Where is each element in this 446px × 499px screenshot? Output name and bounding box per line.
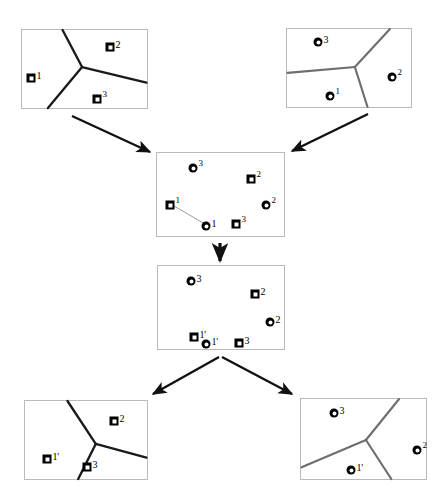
marker-label: 2 <box>276 315 281 325</box>
marker-label: 1' <box>357 463 363 473</box>
marker-label: 3 <box>197 274 202 284</box>
marker-label: 1 <box>176 195 180 205</box>
marker-label: 3 <box>340 406 345 416</box>
marker-label: 2 <box>257 169 261 179</box>
marker-label: 2 <box>272 195 276 205</box>
marker-square-3 <box>93 95 102 104</box>
marker-label: 3 <box>103 89 107 99</box>
panel-result-circles-voronoi: 321' <box>300 398 427 480</box>
marker-circle-2 <box>388 73 397 82</box>
marker-circle-3 <box>314 38 323 47</box>
marker-circle-1prime <box>347 466 356 475</box>
marker-label: 3 <box>242 214 246 224</box>
marker-label: 1 <box>212 219 217 229</box>
marker-label: 3 <box>324 35 329 45</box>
marker-label: 2 <box>120 414 125 424</box>
marker-square-3 <box>232 220 241 229</box>
marker-circle-1 <box>326 92 335 101</box>
voronoi-edge-3 <box>366 440 391 479</box>
voronoi-lines-top-left <box>22 30 147 108</box>
marker-square-3 <box>235 339 244 348</box>
marker-square-3 <box>83 463 92 472</box>
marker-square-2 <box>247 175 256 184</box>
marker-circle-3 <box>189 164 198 173</box>
marker-circle-1prime <box>202 340 211 349</box>
marker-label: 3 <box>245 336 250 346</box>
marker-label: 2 <box>261 287 266 297</box>
marker-label: 2 <box>423 440 427 450</box>
marker-circle-1 <box>202 222 211 231</box>
voronoi-edge-1 <box>63 30 83 67</box>
marker-label: 1' <box>53 452 59 462</box>
marker-label: 1 <box>37 71 42 81</box>
marker-circle-3 <box>187 277 196 286</box>
panel-source-circles-voronoi: 321 <box>286 28 412 108</box>
voronoi-edge-3 <box>355 67 368 107</box>
panel-combined-unregistered: 321213 <box>156 152 285 237</box>
marker-square-2 <box>106 43 115 52</box>
marker-square-1prime <box>190 333 199 342</box>
panel-source-squares-voronoi: 123 <box>21 29 148 109</box>
marker-square-1prime <box>43 455 52 464</box>
panel-combined-registered: 3221'1'3 <box>157 265 285 350</box>
marker-label: 1 <box>336 86 340 96</box>
voronoi-edge-2 <box>48 67 82 108</box>
marker-label: 2 <box>116 40 121 50</box>
marker-label: 1' <box>200 330 206 340</box>
voronoi-lines-middle-lower <box>158 266 284 349</box>
marker-circle-2 <box>262 201 271 210</box>
voronoi-edge-2 <box>288 67 355 73</box>
voronoi-edge-1 <box>366 399 399 440</box>
marker-label: 2 <box>398 67 402 77</box>
marker-square-2 <box>110 417 119 426</box>
voronoi-edge-1 <box>67 401 95 444</box>
figure-root: 1233213212133221'1'321'3321' <box>0 0 446 499</box>
voronoi-lines-top-right <box>287 29 411 107</box>
marker-circle-2 <box>266 318 275 327</box>
marker-square-2 <box>251 290 260 299</box>
marker-square-1 <box>27 74 36 83</box>
marker-label: 3 <box>199 158 203 168</box>
voronoi-lines-bottom-right <box>301 399 426 479</box>
marker-circle-2 <box>413 446 422 455</box>
marker-label: 1' <box>212 337 218 347</box>
voronoi-edge-3 <box>96 444 147 458</box>
correspondence-link <box>170 204 205 225</box>
voronoi-edge-1 <box>355 29 390 67</box>
panel-result-squares-voronoi: 21'3 <box>24 400 148 480</box>
marker-square-1 <box>166 201 175 210</box>
voronoi-edge-3 <box>82 67 146 83</box>
marker-label: 3 <box>93 460 98 470</box>
marker-circle-3 <box>330 409 339 418</box>
